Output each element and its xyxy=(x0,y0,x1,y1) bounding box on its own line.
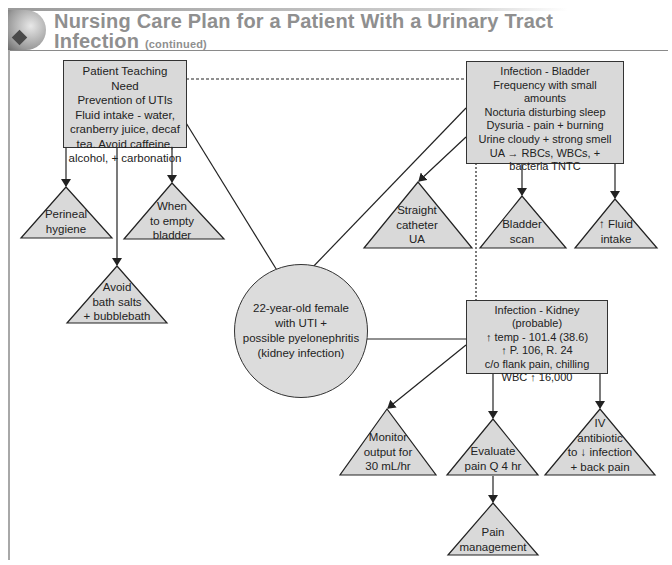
teaching-line: tea. Avoid caffeine, xyxy=(68,137,182,152)
kidney-infection-box: Infection - Kidney (probable) ↑ temp - 1… xyxy=(466,300,608,374)
bladder-line: Nocturia disturbing sleep xyxy=(471,106,619,120)
teaching-line: Fluid intake - water, xyxy=(68,108,182,123)
kidney-line: ↑ temp - 101.4 (38.6) xyxy=(471,331,603,344)
evaluate-pain-label: Evaluate pain Q 4 hr xyxy=(456,444,530,473)
kidney-line: WBC ↑ 16,000 xyxy=(471,371,603,384)
label-line: Perineal xyxy=(36,207,96,222)
bladder-line: bacteria TNTC xyxy=(471,160,619,174)
link-teaching-center xyxy=(183,118,278,272)
bladder-line: UA → RBCs, WBCs, + xyxy=(471,147,619,161)
teaching-line: alcohol, + carbonation xyxy=(68,151,182,166)
bladder-line: Urine cloudy + strong smell xyxy=(471,133,619,147)
label-line: 30 mL/hr xyxy=(352,459,424,474)
label-line: management xyxy=(456,540,530,555)
straight-catheter-label: Straight catheter UA xyxy=(384,203,450,247)
iv-antibiotic-label: IV antibiotic to ↓ infection + back pain xyxy=(560,416,640,474)
label-line: When xyxy=(139,199,205,214)
teaching-line: cranberry juice, decaf xyxy=(68,122,182,137)
label-line: ↑ Fluid xyxy=(588,217,644,232)
bladder-line: Infection - Bladder xyxy=(471,65,619,79)
label-line: pain Q 4 hr xyxy=(456,459,530,474)
label-line: antibiotic xyxy=(560,431,640,446)
bladder-scan-label: Bladder scan xyxy=(494,217,550,246)
label-line: + bubblebath xyxy=(82,309,152,324)
label-line: Avoid xyxy=(82,280,152,295)
label-line: intake xyxy=(588,232,644,247)
label-line: Bladder xyxy=(494,217,550,232)
label-line: to empty xyxy=(139,214,205,229)
label-line: Monitor xyxy=(352,430,424,445)
center-line: possible pyelonephritis xyxy=(243,331,359,346)
label-line: Straight xyxy=(384,203,450,218)
kidney-line: ↑ P. 106, R. 24 xyxy=(471,344,603,357)
teaching-line: Prevention of UTIs xyxy=(68,93,182,108)
bladder-infection-box: Infection - Bladder Frequency with small… xyxy=(466,61,624,164)
avoid-bath-salts-label: Avoid bath salts + bubblebath xyxy=(82,280,152,324)
label-line: UA xyxy=(384,232,450,247)
label-line: bath salts xyxy=(82,295,152,310)
monitor-output-label: Monitor output for 30 mL/hr xyxy=(352,430,424,474)
kidney-line: Infection - Kidney (probable) xyxy=(471,304,603,331)
label-line: catheter xyxy=(384,218,450,233)
center-line: 22-year-old female xyxy=(243,301,359,316)
label-line: bladder xyxy=(139,228,205,243)
center-line: (kidney infection) xyxy=(243,346,359,361)
label-line: to ↓ infection xyxy=(560,445,640,460)
teaching-need-box: Patient Teaching Need Prevention of UTIs… xyxy=(63,60,187,148)
label-line: hygiene xyxy=(36,222,96,237)
label-line: Evaluate xyxy=(456,444,530,459)
fluid-intake-label: ↑ Fluid intake xyxy=(588,217,644,246)
teaching-line: Patient Teaching Need xyxy=(68,64,182,93)
label-line: IV xyxy=(560,416,640,431)
label-line: + back pain xyxy=(560,460,640,475)
center-line: with UTI + xyxy=(243,316,359,331)
bladder-line: Frequency with small amounts xyxy=(471,79,619,106)
perineal-hygiene-label: Perineal hygiene xyxy=(36,207,96,236)
label-line: scan xyxy=(494,232,550,247)
kidney-line: c/o flank pain, chilling xyxy=(471,358,603,371)
patient-center-node: 22-year-old female with UTI + possible p… xyxy=(234,264,368,398)
label-line: output for xyxy=(352,445,424,460)
pain-management-label: Pain management xyxy=(456,525,530,554)
when-to-empty-label: When to empty bladder xyxy=(139,199,205,243)
label-line: Pain xyxy=(456,525,530,540)
bladder-line: Dysuria - pain + burning xyxy=(471,119,619,133)
